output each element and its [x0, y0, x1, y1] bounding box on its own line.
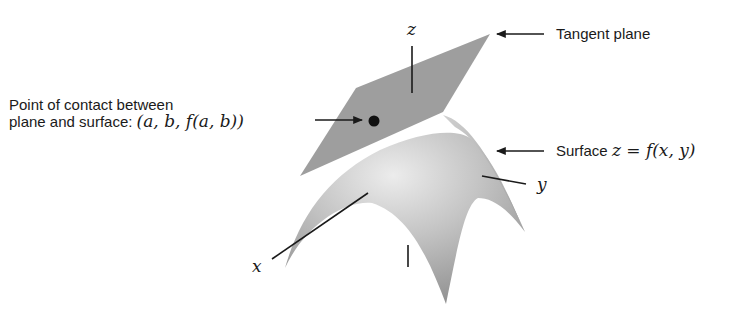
- contact-point: [369, 116, 380, 127]
- contact-label-line2: plane and surface: (a, b, f(a, b)): [9, 111, 244, 131]
- surface-label: Surface z = f(x, y): [556, 140, 695, 160]
- axis-x-label: x: [252, 256, 262, 276]
- contact-label-text: plane and surface:: [9, 113, 137, 130]
- axis-y-label: y: [536, 174, 547, 194]
- tangent-plane-diagram: z x y Tangent plane Point of contact bet…: [0, 0, 749, 316]
- tangent-plane-label: Tangent plane: [556, 25, 650, 42]
- surface-label-math: z = f(x, y): [611, 140, 696, 160]
- axis-z-label: z: [406, 19, 417, 39]
- surface-label-text: Surface: [556, 142, 612, 159]
- contact-label-math: (a, b, f(a, b)): [137, 111, 244, 131]
